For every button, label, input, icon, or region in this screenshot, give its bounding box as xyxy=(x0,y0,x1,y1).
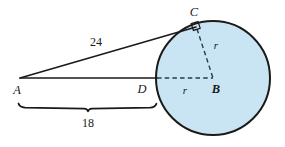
point-label-a: A xyxy=(13,84,21,97)
point-label-b: B xyxy=(212,83,220,96)
point-label-d: D xyxy=(137,83,146,96)
diagram-canvas xyxy=(0,0,285,147)
measure-label-r-db: r xyxy=(183,85,187,96)
measure-label-r-cb: r xyxy=(214,40,218,51)
measure-label-18: 18 xyxy=(82,117,94,129)
measure-label-24: 24 xyxy=(90,36,102,48)
brace-18 xyxy=(19,104,157,112)
point-label-c: C xyxy=(190,6,198,19)
geometry-diagram: A D B C 24 r r 18 xyxy=(0,0,285,147)
